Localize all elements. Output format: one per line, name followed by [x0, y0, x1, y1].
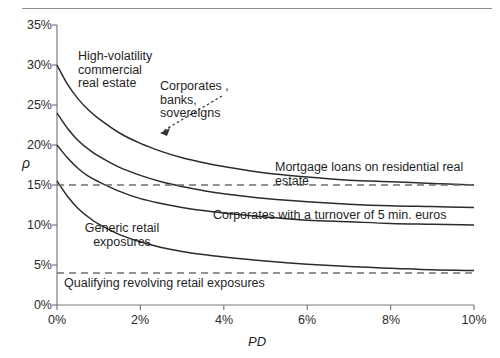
y-tick-label: 25% — [14, 98, 52, 112]
y-tick-label: 0% — [14, 298, 52, 312]
x-tick-label: 8% — [369, 313, 413, 327]
x-tick-label: 0% — [35, 313, 79, 327]
x-tick-label: 2% — [118, 313, 162, 327]
y-tick-label: 35% — [14, 18, 52, 32]
chart-figure: 35% 30% 25% 20% 15% 10% 5% 0% 0% 2% 4% 6… — [0, 0, 500, 358]
x-tick-label: 6% — [285, 313, 329, 327]
annotation-hvcre: High-volatility commercial real estate — [78, 50, 152, 91]
y-tick-label: 10% — [14, 218, 52, 232]
y-tick-label: 20% — [14, 138, 52, 152]
y-tick-label: 5% — [14, 258, 52, 272]
annotation-qrre: Qualifying revolving retail exposures — [64, 277, 265, 291]
x-tick-label: 4% — [202, 313, 246, 327]
y-tick-label: 15% — [14, 178, 52, 192]
x-axis-ticks — [57, 305, 474, 310]
annotation-generic-retail: Generic retail exposures — [62, 222, 182, 249]
y-tick-label: 30% — [14, 58, 52, 72]
y-axis-title: ρ — [22, 155, 30, 171]
annotation-mortgage-loans: Mortgage loans on residential real estat… — [275, 161, 500, 188]
annotation-corporates-banks-sovereigns: Corporates , banks, sovereigns — [160, 80, 229, 121]
x-axis-title: PD — [248, 334, 266, 349]
annotation-corporates-turnover: Corporates with a turnover of 5 min. eur… — [213, 209, 446, 223]
x-tick-label: 10% — [450, 313, 498, 327]
y-axis-ticks — [52, 25, 57, 305]
